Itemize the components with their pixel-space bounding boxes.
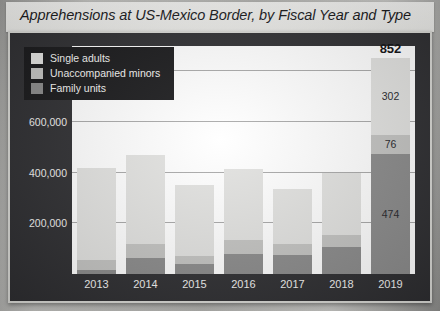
bar-segment-minors[interactable] [322, 235, 361, 248]
bar-segment-minors[interactable] [126, 244, 165, 258]
chart-photo-background: Apprehensions at US-Mexico Border, by Fi… [0, 0, 440, 311]
bar-2018[interactable] [322, 173, 361, 274]
y-axis-tick-label: 600,000 [29, 116, 67, 128]
page-title: Apprehensions at US-Mexico Border, by Fi… [20, 7, 411, 23]
segment-value-label: 474 [371, 208, 410, 220]
x-axis: 2013201420152016201720182019 [72, 276, 415, 298]
bar-2013[interactable] [77, 168, 116, 274]
bar-segment-single[interactable] [175, 185, 214, 256]
bar-2014[interactable] [126, 155, 165, 274]
legend: Single adultsUnaccompanied minorsFamily … [24, 47, 174, 100]
bar-segment-minors[interactable] [224, 240, 263, 254]
bar-segment-family[interactable]: 474 [371, 154, 410, 274]
bar-segment-single[interactable] [273, 189, 312, 243]
bar-segment-single[interactable] [126, 155, 165, 244]
legend-label: Single adults [50, 52, 110, 64]
bar-segment-family[interactable] [273, 255, 312, 274]
bar-segment-family[interactable] [77, 270, 116, 274]
bar-2017[interactable] [273, 189, 312, 274]
y-axis-tick-label: 400,000 [29, 167, 67, 179]
segment-value-label: 76 [371, 138, 410, 150]
legend-label: Unaccompanied minors [50, 67, 160, 79]
bar-segment-minors[interactable] [77, 260, 116, 270]
x-axis-tick-2016: 2016 [219, 278, 268, 290]
legend-label: Family units [50, 82, 106, 94]
segment-value-label: 302 [371, 90, 410, 102]
bar-segment-single[interactable] [77, 168, 116, 260]
x-axis-tick-2018: 2018 [317, 278, 366, 290]
x-axis-tick-2015: 2015 [170, 278, 219, 290]
bar-segment-family[interactable] [175, 264, 214, 274]
x-axis-tick-2017: 2017 [268, 278, 317, 290]
title-strip: Apprehensions at US-Mexico Border, by Fi… [6, 2, 434, 32]
x-axis-tick-2014: 2014 [121, 278, 170, 290]
bar-segment-family[interactable] [322, 247, 361, 274]
bar-segment-minors[interactable] [273, 244, 312, 255]
legend-swatch-icon [31, 53, 43, 64]
x-axis-tick-2019: 2019 [366, 278, 415, 290]
legend-item-minors[interactable]: Unaccompanied minors [31, 67, 160, 79]
bar-segment-family[interactable] [224, 254, 263, 274]
bar-segment-single[interactable] [224, 169, 263, 240]
bar-segment-single[interactable]: 302 [371, 58, 410, 135]
legend-swatch-icon [31, 83, 43, 94]
bar-segment-single[interactable] [322, 173, 361, 235]
x-axis-tick-2013: 2013 [72, 278, 121, 290]
legend-swatch-icon [31, 68, 43, 79]
legend-item-single[interactable]: Single adults [31, 52, 160, 64]
bar-2019[interactable]: 85230276474 [371, 58, 410, 274]
bar-segment-minors[interactable] [175, 256, 214, 264]
chart-panel: 200,000400,000600,000800,000 85230276474… [8, 31, 432, 303]
y-axis-tick-label: 200,000 [29, 217, 67, 229]
bar-segment-family[interactable] [126, 258, 165, 274]
bar-2015[interactable] [175, 185, 214, 274]
legend-item-family[interactable]: Family units [31, 82, 160, 94]
bar-2016[interactable] [224, 169, 263, 274]
bar-segment-minors[interactable]: 76 [371, 135, 410, 154]
bar-total-label: 852 [371, 41, 410, 56]
